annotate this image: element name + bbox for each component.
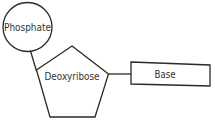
deoxyribose-label: Deoxyribose bbox=[45, 71, 100, 82]
deoxyribose-node: Deoxyribose bbox=[37, 46, 109, 117]
nucleotide-diagram: Phosphate Deoxyribose Base bbox=[0, 0, 215, 123]
base-label: Base bbox=[155, 69, 176, 80]
phosphate-sugar-bond bbox=[31, 51, 37, 71]
base-node: Base bbox=[131, 62, 210, 86]
phosphate-node: Phosphate bbox=[3, 3, 52, 52]
phosphate-label: Phosphate bbox=[4, 22, 51, 33]
